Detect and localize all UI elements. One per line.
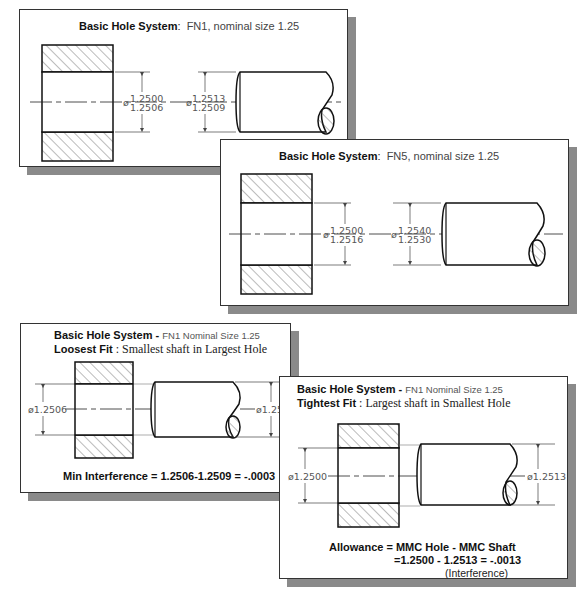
- svg-text:1.2530: 1.2530: [398, 234, 431, 245]
- hole-dim-lower: 1.2506: [130, 102, 163, 113]
- svg-text:ø: ø: [391, 229, 397, 240]
- diameter-symbol: ø: [123, 97, 129, 108]
- panel-loosest-fit: Basic Hole System - FN1 Nominal Size 1.2…: [20, 323, 291, 493]
- fn5-hole-shaft-drawing: ø 1.2500 1.2516 ø 1.2540 1.2530: [221, 140, 570, 307]
- svg-text:1.2516: 1.2516: [330, 234, 363, 245]
- hole-dim: ø1.2506: [28, 404, 67, 415]
- hole-wall-bottom: [42, 132, 113, 161]
- svg-text:ø1.2513: ø1.2513: [527, 471, 566, 482]
- allowance-note-line3: (Interference): [445, 567, 508, 579]
- panel-tightest-fit: Basic Hole System - FN1 Nominal Size 1.2…: [279, 376, 568, 579]
- shaft-break-section: [318, 108, 334, 134]
- panel-fn5-basic-hole: Basic Hole System: FN5, nominal size 1.2…: [220, 139, 569, 306]
- allowance-note-line1: Allowance = MMC Hole - MMC Shaft: [329, 541, 516, 553]
- min-interference-note: Min Interference = 1.2506-1.2509 = -.000…: [63, 470, 275, 482]
- svg-text:ø1.2500: ø1.2500: [288, 471, 327, 482]
- svg-text:ø: ø: [323, 229, 329, 240]
- shaft-dim-lower: 1.2509: [192, 102, 225, 113]
- hole-wall-top: [42, 45, 113, 72]
- allowance-note-line2: =1.2500 - 1.2513 = -.0013: [394, 554, 521, 566]
- loosest-fit-drawing: ø1.2506 ø1.2509: [21, 324, 292, 494]
